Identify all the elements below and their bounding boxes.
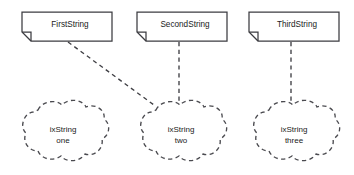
connector-group [68, 42, 291, 105]
cloud-ix-string-one[interactable]: ixString one [23, 100, 109, 160]
cloud-label-one-line1: ixString [50, 125, 77, 134]
diagram-svg: ixString one ixString two ixString three… [0, 0, 354, 175]
cloud-label-three-line1: ixString [281, 125, 308, 134]
cloud-label-two-line1: ixString [168, 125, 195, 134]
diagram-canvas: ixString one ixString two ixString three… [0, 0, 354, 175]
note-second-string[interactable]: SecondString [137, 12, 227, 41]
cloud-ix-string-three[interactable]: ixString three [254, 100, 340, 160]
note-label-first-string: FirstString [51, 20, 89, 29]
connector-first-string-to-ix-string-two[interactable] [68, 42, 154, 105]
cloud-label-three-line2: three [285, 136, 304, 145]
cloud-ix-string-two[interactable]: ixString two [141, 100, 227, 160]
cloud-label-two-line2: two [175, 136, 188, 145]
note-first-string[interactable]: FirstString [22, 12, 112, 41]
note-label-third-string: ThirdString [277, 20, 317, 29]
note-third-string[interactable]: ThirdString [249, 12, 339, 41]
cloud-label-one-line2: one [56, 136, 70, 145]
note-label-second-string: SecondString [160, 20, 210, 29]
